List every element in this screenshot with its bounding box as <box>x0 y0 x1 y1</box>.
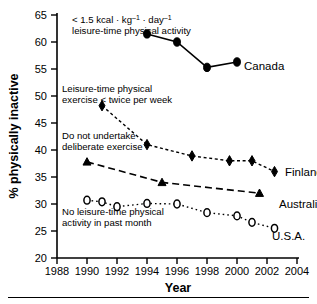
x-tick-label-2004: 2004 <box>285 265 309 277</box>
x-axis-title: Year <box>165 281 192 295</box>
x-tick-label-1988: 1988 <box>45 265 69 277</box>
data-point <box>84 196 90 204</box>
x-tick-label-1992: 1992 <box>105 265 129 277</box>
y-tick-label-35: 35 <box>35 171 47 183</box>
y-tick-label-60: 60 <box>35 36 47 48</box>
x-tick-label-1996: 1996 <box>165 265 189 277</box>
data-point <box>234 58 241 66</box>
bottom-divider <box>8 297 309 298</box>
series-label-finland: Finland <box>285 166 317 178</box>
y-tick-label-55: 55 <box>35 63 47 75</box>
finland-annotation: Leisure-time physical exercise < twice p… <box>62 83 172 105</box>
series-line-2 <box>87 162 260 193</box>
chart-figure: 65 60 55 50 45 40 35 30 25 20 1988 1990 … <box>0 0 317 304</box>
australia-annotation-line1: Do not undertake <box>62 130 136 141</box>
usa-annotation: No leisure-time physical activity in pas… <box>62 206 164 228</box>
data-point <box>227 156 233 166</box>
y-tick-label-20: 20 <box>35 252 47 264</box>
series-line-0 <box>147 34 237 67</box>
line-chart-canvas: 65 60 55 50 45 40 35 30 25 20 1988 1990 … <box>0 0 317 304</box>
data-point <box>144 200 150 208</box>
data-point <box>234 212 240 220</box>
australia-annotation-line2: deliberate exercise <box>62 141 143 152</box>
data-point <box>158 178 166 185</box>
y-tick-label-50: 50 <box>35 90 47 102</box>
series-label-canada: Canada <box>244 60 285 72</box>
data-point <box>189 151 195 161</box>
data-point <box>272 166 278 176</box>
data-point <box>144 30 151 38</box>
data-point <box>256 189 264 196</box>
canada-annotation: < 1.5 kcal · kg–1 · day–1 leisure-time p… <box>72 14 191 36</box>
data-point <box>99 198 105 206</box>
data-point <box>144 139 150 149</box>
series-label-australia: Australia <box>279 198 317 210</box>
x-tick-label-2002: 2002 <box>255 265 279 277</box>
x-tick-label-1994: 1994 <box>135 265 159 277</box>
series-label-usa: U.S.A. <box>272 230 305 242</box>
y-axis: 65 60 55 50 45 40 35 30 25 20 <box>35 9 57 264</box>
data-point <box>174 200 180 208</box>
canada-annotation-line1: < 1.5 kcal · kg–1 · day–1 <box>72 14 172 25</box>
australia-annotation: Do not undertake deliberate exercise <box>62 130 143 152</box>
data-point <box>249 156 255 166</box>
canada-annotation-line2: leisure-time physical activity <box>72 25 191 36</box>
x-tick-label-1990: 1990 <box>75 265 99 277</box>
data-point <box>114 203 120 211</box>
series-australia <box>83 158 264 197</box>
y-tick-label-30: 30 <box>35 198 47 210</box>
data-point <box>204 63 211 71</box>
x-tick-label-2000: 2000 <box>225 265 249 277</box>
data-point <box>249 218 255 226</box>
y-tick-label-45: 45 <box>35 117 47 129</box>
y-tick-label-25: 25 <box>35 225 47 237</box>
y-tick-label-65: 65 <box>35 9 47 21</box>
y-axis-title: % physically inactive <box>7 73 21 198</box>
usa-annotation-line2: activity in past month <box>62 217 152 228</box>
finland-annotation-line1: Leisure-time physical <box>62 83 152 94</box>
data-point <box>204 209 210 217</box>
y-tick-label-40: 40 <box>35 144 47 156</box>
data-point <box>83 158 91 165</box>
data-point <box>174 38 181 46</box>
x-axis: 1988 1990 1992 1994 1996 1998 2000 2002 … <box>45 258 309 277</box>
finland-annotation-line2: exercise < twice per week <box>62 94 172 105</box>
x-tick-label-1998: 1998 <box>195 265 219 277</box>
